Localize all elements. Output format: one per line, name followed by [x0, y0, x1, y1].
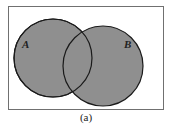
figure-caption: (a) — [0, 111, 172, 123]
set-a-label: A — [21, 38, 29, 50]
venn-diagram: A B — [0, 0, 172, 129]
set-b-label: B — [123, 38, 131, 50]
